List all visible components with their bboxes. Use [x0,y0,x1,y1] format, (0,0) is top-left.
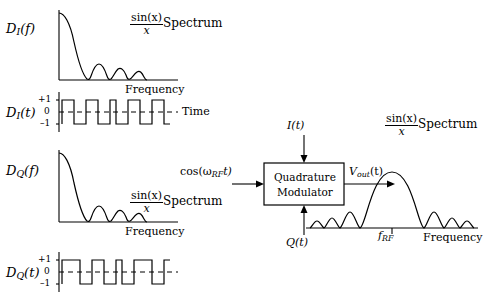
di-time-tick-plus1: +1 [38,95,51,104]
modulator-label-line2: Modulator [277,187,333,198]
dq-time-y-label: DQ(t) [6,266,39,281]
lo-input-label: cos(ωRFt) [180,166,232,179]
i-input-label: I(t) [287,120,304,131]
dq-time-tick-minus1: –1 [40,279,50,288]
output-spectrum-x-label: Frequency [423,232,483,243]
quadrature-modulator-block [264,163,344,205]
di-time-tick-minus1: –1 [40,119,50,128]
di-spectrum-x-label: Frequency [125,84,185,95]
diagram-vector-layer [0,0,488,303]
block-diagram: DI(f) sin(x)xSpectrum Frequency DI(t) +1… [0,0,488,303]
di-time-tick-zero: 0 [44,107,50,116]
q-input-arrow [301,205,308,235]
di-time-y-label: DI(t) [6,106,36,121]
vout-output-arrow [344,181,395,188]
vout-label: Vout(t) [349,166,383,179]
di-time-x-label: Time [182,106,210,117]
lo-input-arrow [232,181,264,188]
q-input-label: Q(t) [286,237,308,248]
dq-time-tick-zero: 0 [44,267,50,276]
dq-time-tick-plus1: +1 [38,255,51,264]
i-input-arrow [301,135,308,163]
di-spectrum-y-label: DI(f) [6,22,35,37]
output-spectrum-annotation: sin(x)xSpectrum [385,113,477,137]
dq-spectrum-annotation: sin(x)xSpectrum [130,190,222,214]
modulator-label-line1: Quadrature [274,172,336,183]
dq-spectrum-y-label: DQ(f) [6,164,39,179]
output-frf-tick-label: fRF [378,230,394,243]
di-spectrum-annotation: sin(x)xSpectrum [130,12,222,36]
dq-spectrum-x-label: Frequency [125,226,185,237]
